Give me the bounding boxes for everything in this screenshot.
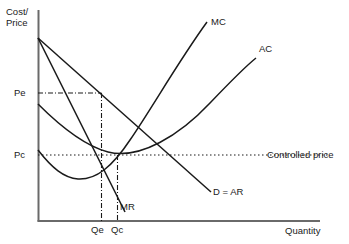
ac-curve-label: AC (259, 43, 272, 54)
y-axis-label: Cost/ Price (6, 6, 28, 28)
controlled-price-label: Controlled price (267, 149, 334, 160)
average-cost-curve (38, 58, 256, 154)
diagram-page: Cost/ Price Quantity Pe Pc Qe Qc MC AC M… (0, 0, 349, 244)
pc-price-label: Pc (14, 149, 25, 160)
pe-price-label: Pe (14, 87, 26, 98)
economics-diagram-canvas (0, 0, 349, 244)
mr-curve-label: MR (120, 201, 135, 212)
demand-curve-label: D = AR (213, 186, 243, 197)
mc-curve-label: MC (211, 16, 226, 27)
qc-quantity-label: Qc (111, 224, 123, 235)
qe-quantity-label: Qe (91, 224, 104, 235)
y-axis-label-line2: Price (6, 17, 28, 28)
y-axis-label-line1: Cost/ (6, 6, 28, 17)
x-axis-label: Quantity (285, 225, 320, 236)
marginal-revenue-curve (38, 38, 125, 212)
demand-curve (38, 38, 211, 192)
axes-group (38, 10, 321, 222)
